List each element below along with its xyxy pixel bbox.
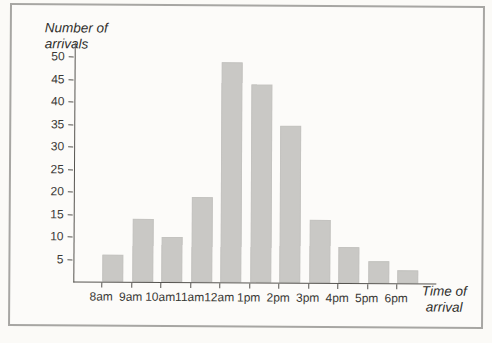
y-tick-label: 45 <box>40 72 64 86</box>
bar-6pm <box>397 270 418 284</box>
x-tick-label: 6pm <box>379 291 413 305</box>
y-tick-label: 40 <box>40 94 64 108</box>
x-tick-mark <box>278 284 279 289</box>
x-tick-mark <box>219 283 220 288</box>
bar-1pm <box>250 84 272 282</box>
x-tick-mark <box>367 284 368 289</box>
bar-11am <box>191 197 213 283</box>
bar-12am <box>220 62 242 283</box>
y-tick-label: 30 <box>40 139 64 153</box>
y-tick-label: 15 <box>40 207 64 221</box>
x-tick-mark <box>308 284 309 289</box>
x-tick-mark <box>190 283 191 288</box>
y-tick-mark <box>68 214 73 215</box>
y-tick-mark <box>68 169 73 170</box>
y-tick-mark <box>68 124 73 125</box>
bar-5pm <box>368 261 389 284</box>
y-axis-title-line1: Number of <box>45 20 108 37</box>
y-axis-line <box>73 42 75 282</box>
x-axis-title: Time of arrival <box>413 283 475 316</box>
y-tick-label: 50 <box>41 49 65 63</box>
y-tick-label: 10 <box>40 229 64 243</box>
y-tick-mark <box>67 259 72 260</box>
scanned-page: Number of arrivals 51015202530354045508a… <box>0 0 492 343</box>
chart-frame: Number of arrivals 51015202530354045508a… <box>8 3 485 329</box>
y-tick-label: 5 <box>39 252 63 266</box>
x-axis-title-line1: Time of <box>413 283 475 300</box>
bar-2pm <box>279 125 301 283</box>
bar-3pm <box>309 220 330 283</box>
x-tick-mark <box>249 283 250 288</box>
bar-8am <box>102 255 123 282</box>
x-tick-mark <box>101 283 102 288</box>
y-tick-mark <box>69 79 74 80</box>
y-tick-label: 35 <box>40 117 64 131</box>
y-tick-mark <box>68 146 73 147</box>
y-tick-mark <box>68 236 73 237</box>
y-tick-mark <box>68 101 73 102</box>
bar-9am <box>132 219 153 282</box>
x-tick-mark <box>131 283 132 288</box>
y-tick-label: 25 <box>40 162 64 176</box>
x-axis-title-line2: arrival <box>413 300 475 317</box>
bar-4pm <box>338 247 359 283</box>
y-tick-label: 20 <box>40 184 64 198</box>
bar-10am <box>161 237 182 282</box>
x-tick-mark <box>396 284 397 289</box>
y-tick-mark <box>69 56 74 57</box>
y-tick-mark <box>68 191 73 192</box>
plot-area: 51015202530354045508am9am10am11am12am1pm… <box>12 5 483 8</box>
x-tick-mark <box>337 284 338 289</box>
x-tick-mark <box>160 283 161 288</box>
